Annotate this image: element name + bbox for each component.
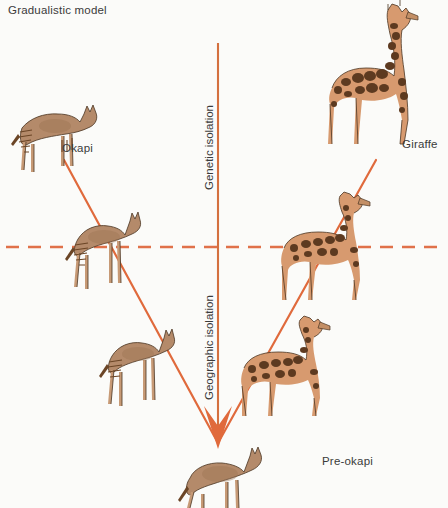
animal-giraffe-final [328, 0, 418, 144]
axis-label-geographic-isolation: Geographic isolation [203, 295, 215, 400]
animal-pre-okapi [178, 447, 262, 508]
diagram-artwork [0, 0, 448, 508]
animal-okapi-stage-3 [65, 212, 141, 289]
animal-okapi-final [11, 105, 97, 172]
divergence-line-okapi [64, 160, 218, 443]
animal-giraffe-stage-3 [281, 192, 370, 300]
animal-giraffe-stage-2 [241, 316, 330, 416]
label-pre-okapi: Pre-okapi [322, 455, 373, 467]
figure-canvas: Gradualistic model Okapi Giraffe Pre-oka… [0, 0, 448, 508]
label-okapi: Okapi [62, 142, 93, 154]
animal-okapi-stage-2 [99, 329, 175, 406]
figure-title: Gradualistic model [8, 4, 107, 16]
label-giraffe: Giraffe [402, 138, 438, 150]
axis-label-genetic-isolation: Genetic isolation [203, 105, 215, 190]
